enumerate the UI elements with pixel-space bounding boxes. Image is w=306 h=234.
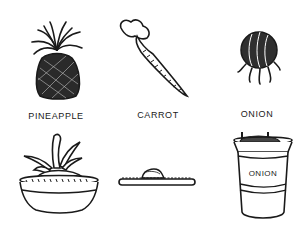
onion-cup-illustration: ONION xyxy=(230,128,296,224)
onion-icon xyxy=(234,28,284,88)
carrot-label: CARROT xyxy=(128,110,188,120)
pineapple-label: PINEAPPLE xyxy=(18,111,94,121)
carrot-top-in-dish-icon xyxy=(116,162,198,190)
cup-label: ONION xyxy=(249,169,278,178)
carrot-illustration xyxy=(115,14,195,99)
onion-illustration xyxy=(234,28,284,88)
potted-pineapple-top-icon xyxy=(14,130,104,216)
carrot-icon xyxy=(115,14,195,99)
pineapple-icon xyxy=(28,18,86,100)
carrot-dish-illustration xyxy=(116,162,198,190)
potted-pineapple-illustration xyxy=(14,130,104,216)
onion-label: ONION xyxy=(230,109,284,119)
pineapple-illustration xyxy=(28,18,86,100)
onion-in-cup-icon: ONION xyxy=(230,128,296,224)
